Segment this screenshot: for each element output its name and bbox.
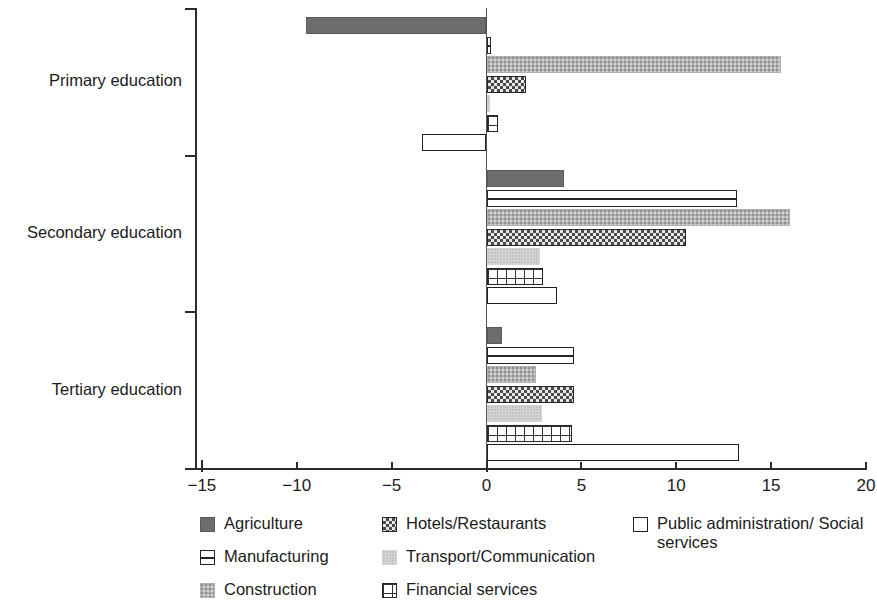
legend-column-1: AgricultureManufacturingConstruction xyxy=(200,514,329,607)
x-axis-tick xyxy=(391,462,393,470)
bar-secondary-transport xyxy=(487,248,540,265)
bar-tertiary-agriculture xyxy=(487,327,502,344)
x-axis-tick-label-0: −15 xyxy=(187,476,216,496)
horizontal-bar-chart: Primary educationSecondary educationTert… xyxy=(0,0,877,607)
legend-item-hotels[interactable]: Hotels/Restaurants xyxy=(382,514,595,536)
bar-secondary-financial-services xyxy=(487,268,544,285)
x-axis-tick xyxy=(486,460,488,472)
x-axis-tick-label-1: −10 xyxy=(282,476,311,496)
legend-label: Hotels/Restaurants xyxy=(406,514,546,533)
bar-secondary-public-administration xyxy=(487,287,557,304)
bar-tertiary-transport xyxy=(487,405,542,422)
bar-tertiary-manufacturing xyxy=(487,347,574,364)
legend-column-2: Hotels/RestaurantsTransport/Communicatio… xyxy=(382,514,595,607)
bar-secondary-hotels xyxy=(487,229,686,246)
legend-item-financial[interactable]: Financial services xyxy=(382,580,595,602)
bar-primary-construction xyxy=(487,56,781,73)
x-axis-tick xyxy=(296,462,298,470)
legend-item-construction[interactable]: Construction xyxy=(200,580,329,602)
bar-secondary-agriculture xyxy=(487,170,565,187)
bar-secondary-construction xyxy=(487,209,791,226)
bar-primary-agriculture xyxy=(306,17,486,34)
bar-secondary-manufacturing xyxy=(487,190,737,207)
bar-primary-manufacturing xyxy=(487,37,492,54)
chart-legend: AgricultureManufacturingConstructionHote… xyxy=(196,514,877,607)
x-axis-tick-label-7: 20 xyxy=(857,476,876,496)
x-axis-tick xyxy=(770,462,772,470)
legend-label: Construction xyxy=(224,580,317,599)
bar-tertiary-financial-services xyxy=(487,425,572,442)
x-axis-tick xyxy=(201,460,203,472)
bar-primary-transport xyxy=(487,95,490,112)
x-axis-tick-label-5: 10 xyxy=(667,476,686,496)
category-label-1: Secondary education xyxy=(27,223,182,242)
y-axis-tick xyxy=(185,8,196,10)
category-label-2: Tertiary education xyxy=(52,380,182,399)
legend-swatch-construction-icon xyxy=(200,583,215,598)
legend-item-transport[interactable]: Transport/Communication xyxy=(382,547,595,569)
legend-label: Financial services xyxy=(406,580,537,599)
bar-primary-financial-services xyxy=(487,115,498,132)
y-axis-tick xyxy=(185,311,196,313)
bar-tertiary-hotels xyxy=(487,386,574,403)
bar-primary-hotels xyxy=(487,76,527,93)
legend-label: Agriculture xyxy=(224,514,303,533)
legend-item-agriculture[interactable]: Agriculture xyxy=(200,514,329,536)
x-axis-tick-label-2: −5 xyxy=(382,476,401,496)
bar-tertiary-public-administration xyxy=(487,444,739,461)
legend-item-public[interactable]: Public administration/ Social services xyxy=(633,514,877,536)
x-axis-tick-label-3: 0 xyxy=(482,476,491,496)
plot-area: Primary educationSecondary educationTert… xyxy=(0,0,877,470)
legend-swatch-hotels-icon xyxy=(382,517,397,532)
legend-swatch-public-icon xyxy=(633,517,648,532)
category-label-0: Primary education xyxy=(49,71,182,90)
bar-tertiary-construction xyxy=(487,366,536,383)
legend-swatch-financial-icon xyxy=(382,583,397,598)
x-axis-tick-label-6: 15 xyxy=(762,476,781,496)
legend-swatch-transport-icon xyxy=(382,550,397,565)
x-axis-tick xyxy=(865,462,867,470)
legend-label: Manufacturing xyxy=(224,547,329,566)
bar-primary-public-administration xyxy=(422,134,487,151)
x-axis-tick xyxy=(675,462,677,470)
legend-item-manufacturing[interactable]: Manufacturing xyxy=(200,547,329,569)
y-axis-tick xyxy=(185,155,196,157)
y-axis-line xyxy=(195,8,197,468)
x-axis-tick xyxy=(580,462,582,470)
legend-column-3: Public administration/ Social services xyxy=(633,514,877,547)
y-axis-tick xyxy=(185,468,196,470)
legend-label: Public administration/ Social services xyxy=(657,514,877,552)
legend-label: Transport/Communication xyxy=(406,547,595,566)
x-axis-tick-label-4: 5 xyxy=(577,476,586,496)
legend-swatch-manufacturing-icon xyxy=(200,550,215,565)
legend-swatch-agriculture-icon xyxy=(200,517,215,532)
